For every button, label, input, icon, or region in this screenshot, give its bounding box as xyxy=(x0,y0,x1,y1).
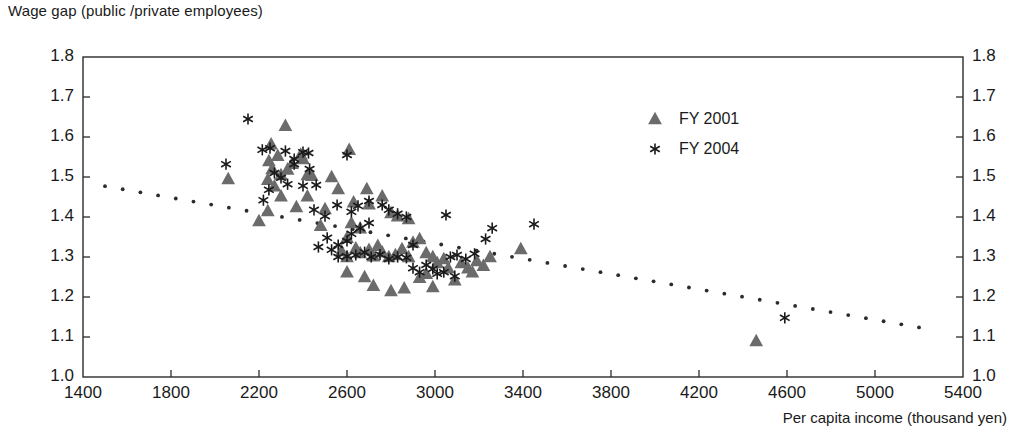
x-tick-label-5400: 5400 xyxy=(923,383,1003,403)
x-tick-label-1800: 1800 xyxy=(131,383,211,403)
y-tick-label-left-1.3: 1.3 xyxy=(18,246,74,266)
x-tick-label-4200: 4200 xyxy=(659,383,739,403)
x-tick-label-3800: 3800 xyxy=(571,383,651,403)
legend-label-fy-2001: FY 2001 xyxy=(679,110,739,128)
x-tick-label-1400: 1400 xyxy=(43,383,123,403)
y-tick-label-left-1.4: 1.4 xyxy=(18,206,74,226)
y-tick-label-left-1.6: 1.6 xyxy=(18,126,74,146)
x-tick-label-3400: 3400 xyxy=(483,383,563,403)
y-tick-label-left-1.8: 1.8 xyxy=(18,46,74,66)
y-tick-label-left-1.7: 1.7 xyxy=(18,86,74,106)
y-tick-label-right-1.5: 1.5 xyxy=(972,166,1017,186)
y-tick-label-right-1.2: 1.2 xyxy=(972,286,1017,306)
x-axis-title: Per capita income (thousand yen) xyxy=(783,409,1007,426)
x-tick-label-2600: 2600 xyxy=(307,383,387,403)
legend-markers xyxy=(648,112,662,155)
trendline xyxy=(103,184,921,329)
plot-canvas xyxy=(0,0,1017,436)
chart-figure: Wage gap (public /private employees) Per… xyxy=(0,0,1017,436)
y-tick-label-right-1.1: 1.1 xyxy=(972,326,1017,346)
axis-ticks xyxy=(83,97,963,377)
y-tick-label-right-1.7: 1.7 xyxy=(972,86,1017,106)
y-tick-label-right-1.4: 1.4 xyxy=(972,206,1017,226)
x-tick-label-3000: 3000 xyxy=(395,383,475,403)
y-tick-label-right-1.6: 1.6 xyxy=(972,126,1017,146)
y-tick-label-right-1.3: 1.3 xyxy=(972,246,1017,266)
y-tick-label-right-1.8: 1.8 xyxy=(972,46,1017,66)
y-tick-label-left-1.1: 1.1 xyxy=(18,326,74,346)
x-tick-label-4600: 4600 xyxy=(747,383,827,403)
y-axis-title: Wage gap (public /private employees) xyxy=(8,2,263,19)
x-tick-label-2200: 2200 xyxy=(219,383,299,403)
y-tick-label-left-1.5: 1.5 xyxy=(18,166,74,186)
legend-label-fy-2004: FY 2004 xyxy=(679,140,739,158)
y-tick-label-left-1.2: 1.2 xyxy=(18,286,74,306)
x-tick-label-5000: 5000 xyxy=(835,383,915,403)
axis-frame xyxy=(83,57,963,377)
